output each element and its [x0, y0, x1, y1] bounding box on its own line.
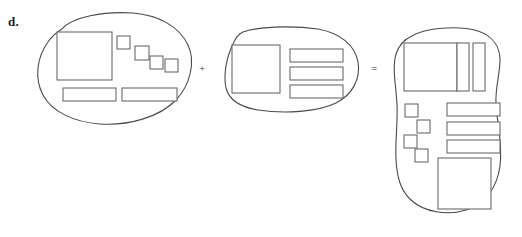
blob-right-small-square-3: [404, 135, 417, 148]
blob-right-bar-3: [447, 140, 500, 153]
blob-left-small-square-3: [150, 56, 163, 69]
blob-left-small-square-4: [165, 59, 178, 72]
blob-middle-rects: [232, 45, 343, 98]
blob-right-bar-2: [447, 122, 500, 135]
blob-left-large-square: [57, 32, 112, 80]
blob-middle-bar-3: [290, 85, 343, 98]
blob-left-group: [38, 13, 192, 125]
blob-right-top-large-square: [404, 43, 457, 91]
blob-left-rects: [57, 32, 178, 101]
blob-right-top-narrow-bar-inner: [457, 43, 469, 91]
blob-right-bar-1: [447, 103, 500, 116]
blob-middle-bar-2: [290, 67, 343, 80]
blob-left-small-square-1: [117, 36, 130, 49]
figure-root: d. + =: [0, 0, 522, 237]
blob-left-bottom-bar-right: [122, 88, 177, 101]
blob-right-top-narrow-bar-outer: [473, 43, 485, 91]
blob-middle-left-square: [232, 45, 280, 93]
blob-right-bottom-large-square: [438, 158, 491, 209]
blob-left-bottom-bar-left: [63, 88, 116, 101]
blob-middle-group: [225, 27, 359, 112]
blob-right-rects: [404, 43, 500, 209]
blob-right-small-square-2: [417, 120, 430, 133]
blob-left-small-square-2: [135, 46, 149, 60]
diagram-canvas: [0, 0, 522, 237]
blob-right-group: [394, 28, 501, 213]
blob-right-small-square-1: [405, 104, 418, 117]
blob-right-small-square-4: [415, 149, 428, 162]
blob-middle-bar-1: [290, 49, 343, 62]
